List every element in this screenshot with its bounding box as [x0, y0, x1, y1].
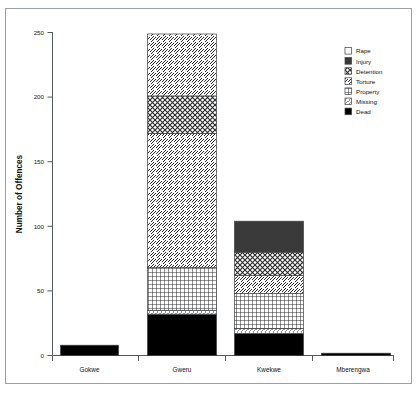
legend-label-injury: Injury — [356, 58, 372, 65]
y-axis-title: Number of Offences — [15, 154, 24, 233]
bar-segment-torture — [148, 133, 217, 267]
y-tick-label: 200 — [34, 93, 45, 100]
legend-label-detention: Detention — [356, 68, 383, 75]
legend-label-property: Property — [356, 88, 380, 95]
y-axis-ticks — [48, 33, 53, 356]
bar-group-mberengwa — [322, 353, 391, 355]
bar-segment-property — [235, 294, 304, 329]
bar-segment-dead — [322, 353, 391, 355]
bar-group-gweru — [148, 34, 217, 356]
x-axis-ticks — [53, 356, 394, 362]
bar-segment-torture-upper — [148, 34, 217, 96]
legend-swatch-property — [345, 88, 352, 95]
bar-segment-torture — [235, 275, 304, 293]
y-tick-label: 150 — [34, 158, 45, 165]
legend-swatch-dead — [345, 108, 352, 115]
legend-swatch-missing — [345, 98, 352, 105]
x-tick-label-gweru: Gweru — [173, 366, 192, 373]
bar-segment-dead — [148, 314, 217, 355]
x-tick-label-gokwe: Gokwe — [80, 366, 100, 373]
bar-segment-dead — [61, 345, 119, 355]
legend-label-torture: Torture — [356, 78, 376, 85]
bar-segment-missing — [148, 310, 217, 314]
legend-swatch-detention — [345, 68, 352, 75]
x-axis-tick-labels: Gokwe Gweru Kwekwe Mberengwa — [80, 366, 371, 374]
y-tick-label: 50 — [37, 287, 44, 294]
x-tick-label-mberengwa: Mberengwa — [336, 366, 370, 374]
bar-group-gokwe — [61, 345, 119, 355]
y-tick-label: 100 — [34, 223, 45, 230]
stacked-bar-chart: 250 200 150 100 50 0 Number of Offences — [0, 0, 417, 400]
legend-label-rape: Rape — [356, 47, 371, 54]
bar-segment-property — [148, 268, 217, 311]
bar-segment-injury — [235, 221, 304, 252]
chart-container: 250 200 150 100 50 0 Number of Offences — [0, 0, 417, 400]
bar-group-kwekwe — [235, 221, 304, 355]
legend-label-missing: Missing — [356, 98, 378, 105]
bar-segment-detention — [235, 252, 304, 275]
x-tick-label-kwekwe: Kwekwe — [257, 366, 281, 373]
bar-segment-missing — [235, 328, 304, 333]
legend-swatch-injury — [345, 58, 352, 65]
legend-label-dead: Dead — [356, 108, 371, 115]
legend-swatch-rape — [345, 48, 352, 55]
bar-segment-detention — [148, 96, 217, 133]
y-tick-label: 0 — [41, 352, 45, 359]
y-axis-tick-labels: 250 200 150 100 50 0 — [34, 29, 45, 359]
bar-segment-dead — [235, 334, 304, 356]
legend-swatch-torture — [345, 78, 352, 85]
y-tick-label: 250 — [34, 29, 45, 36]
chart-legend: Rape Injury Detention Torture Property M… — [345, 47, 383, 115]
